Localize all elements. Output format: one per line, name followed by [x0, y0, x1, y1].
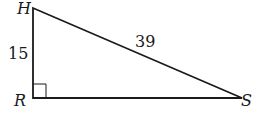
vertex-label-r: R: [13, 91, 26, 110]
side-label-hr: 15: [8, 44, 28, 63]
triangle-diagram: H R S 15 39: [0, 0, 255, 119]
right-angle-marker: [33, 84, 46, 98]
side-label-hs: 39: [135, 32, 155, 51]
vertex-label-h: H: [16, 0, 32, 18]
triangle-hrs: [33, 8, 242, 98]
vertex-label-s: S: [241, 91, 252, 110]
